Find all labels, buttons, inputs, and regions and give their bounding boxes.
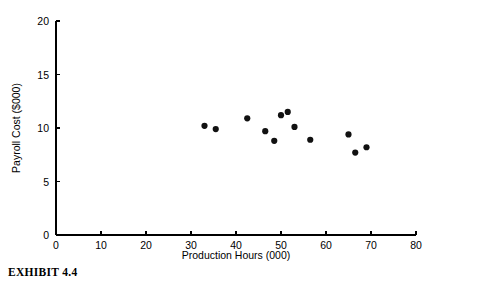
data-point (363, 144, 369, 150)
data-point (345, 131, 351, 137)
y-tick-label: 10 (37, 122, 49, 134)
x-tick-label: 80 (410, 239, 422, 251)
data-point (213, 126, 219, 132)
y-tick-label: 20 (37, 15, 49, 27)
data-point (201, 123, 207, 129)
y-axis-title: Payroll Cost ($000) (10, 83, 22, 173)
data-point (291, 124, 297, 130)
data-point (307, 137, 313, 143)
exhibit-figure: 05101520 01020304050607080 Production Ho… (0, 0, 480, 291)
x-tick-label: 10 (95, 239, 107, 251)
y-tick-label: 0 (43, 229, 49, 241)
scatter-chart: 05101520 01020304050607080 Production Ho… (0, 0, 480, 265)
y-axis-ticks: 05101520 (37, 15, 60, 241)
data-point (244, 115, 250, 121)
data-points-layer (201, 109, 369, 156)
data-point (271, 138, 277, 144)
data-point (285, 109, 291, 115)
y-tick-label: 5 (43, 176, 49, 188)
y-tick-label: 15 (37, 69, 49, 81)
x-tick-label: 60 (320, 239, 332, 251)
data-point (262, 128, 268, 134)
data-point (352, 150, 358, 156)
x-axis-title: Production Hours (000) (182, 249, 291, 261)
data-point (278, 112, 284, 118)
x-tick-label: 20 (140, 239, 152, 251)
axes-group (56, 21, 416, 235)
exhibit-caption: EXHIBIT 4.4 (8, 266, 78, 278)
x-axis-ticks: 01020304050607080 (53, 231, 422, 251)
x-tick-label: 70 (365, 239, 377, 251)
x-tick-label: 0 (53, 239, 59, 251)
